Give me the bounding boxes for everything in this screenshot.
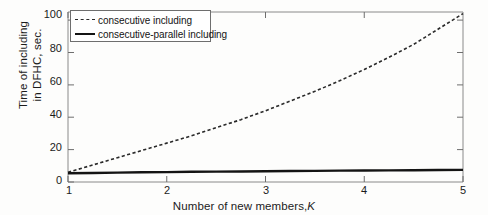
legend-label-consecutive: consecutive including (98, 15, 192, 26)
legend-dashed-line-icon (74, 15, 96, 25)
legend: consecutive including consecutive-parall… (70, 10, 211, 42)
legend-solid-line-icon (74, 29, 96, 39)
series-line-2 (68, 170, 463, 173)
legend-label-consecutive-parallel: consecutive-parallel including (98, 29, 227, 40)
legend-item-consecutive-parallel: consecutive-parallel including (74, 27, 207, 41)
chart-figure: Time of including in DFHC, sec. Number o… (0, 0, 488, 215)
legend-item-consecutive: consecutive including (74, 13, 207, 27)
y-axis-ticks (68, 20, 463, 182)
